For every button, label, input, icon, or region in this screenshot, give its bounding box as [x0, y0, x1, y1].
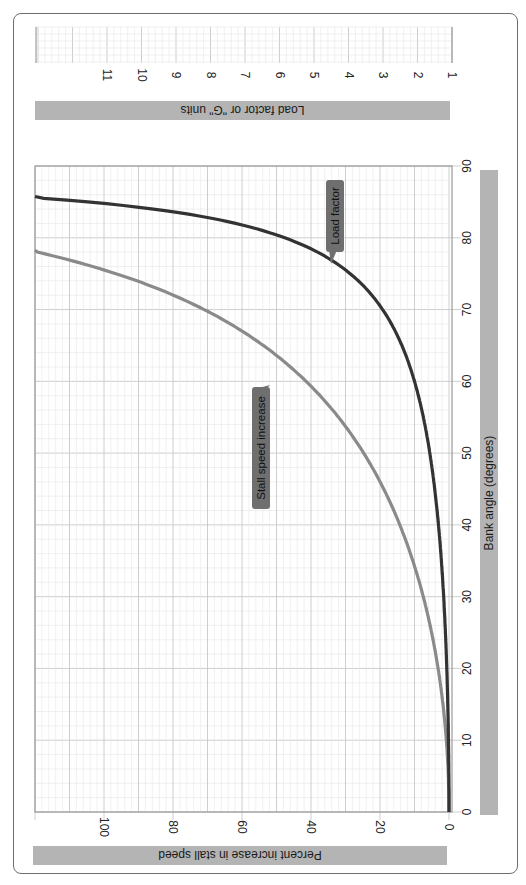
chart-canvas: 1234567891011020406080100010203040506070… — [0, 0, 526, 885]
tick-label: 20 — [460, 661, 474, 675]
tick-label: 5 — [307, 72, 321, 79]
svg-text:Stall speed increase: Stall speed increase — [255, 396, 267, 500]
tick-label: 4 — [342, 72, 356, 79]
tick-label: 100 — [97, 817, 111, 837]
tick-label: 0 — [460, 808, 474, 815]
tick-label: 60 — [460, 374, 474, 388]
bank-angle-axis-label: Bank angle (degrees) — [480, 170, 498, 815]
tick-label: 9 — [169, 72, 183, 79]
tick-label: 6 — [273, 72, 287, 79]
tick-label: 11 — [100, 69, 114, 82]
svg-text:Load factor: Load factor — [329, 187, 341, 245]
tick-label: 90 — [460, 159, 474, 173]
tick-label: 3 — [376, 72, 390, 79]
tick-label: 2 — [411, 72, 425, 79]
tick-label: 10 — [135, 68, 149, 82]
tick-label: 30 — [460, 590, 474, 604]
tick-label: 80 — [460, 231, 474, 245]
tick-label: 7 — [238, 72, 252, 79]
load-factor-axis-label-text: Load factor or "G" units — [181, 104, 305, 118]
load-factor-axis-label: Load factor or "G" units — [35, 101, 450, 120]
load-factor-ruler — [35, 27, 452, 63]
stall-speed-callout: Stall speed increase — [252, 385, 270, 509]
stall-axis-label-text: Percent increase in stall speed — [158, 849, 321, 863]
bank-angle-axis-label-text: Bank angle (degrees) — [482, 435, 496, 550]
load-factor-callout: Load factor — [326, 180, 344, 264]
tick-label: 40 — [304, 820, 318, 834]
tick-label: 70 — [460, 303, 474, 317]
tick-label: 10 — [460, 733, 474, 747]
tick-label: 8 — [204, 72, 218, 79]
tick-label: 20 — [373, 820, 387, 834]
tick-label: 50 — [460, 446, 474, 460]
stall-axis-label: Percent increase in stall speed — [33, 846, 447, 865]
tick-label: 80 — [166, 820, 180, 834]
tick-label: 60 — [235, 820, 249, 834]
tick-label: 0 — [442, 824, 456, 831]
tick-label: 40 — [460, 518, 474, 532]
tick-label: 1 — [445, 72, 459, 79]
callouts: Load factorStall speed increase — [252, 180, 344, 509]
plot-grid — [35, 166, 461, 820]
